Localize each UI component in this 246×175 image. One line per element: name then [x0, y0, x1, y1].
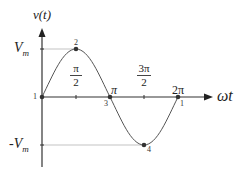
point-4 — [142, 143, 147, 148]
waveform-plot — [0, 0, 246, 175]
pi-label: π — [111, 84, 117, 96]
half-pi-label: π2 — [70, 63, 82, 88]
point-1 — [40, 95, 45, 100]
point-2-label: 2 — [74, 39, 78, 47]
x-axis-label: ωt — [217, 88, 233, 104]
y-axis-arrow-icon — [39, 28, 46, 37]
vm-label: Vm — [14, 41, 29, 58]
point-4-label: 4 — [147, 146, 151, 154]
three-half-pi-label: 3π2 — [137, 63, 151, 88]
point-3-label: 3 — [104, 100, 108, 108]
point-2 — [74, 47, 79, 52]
neg-vm-label: -Vm — [9, 137, 29, 154]
point-5-label: 1 — [180, 100, 184, 108]
x-axis-arrow-icon — [204, 94, 213, 101]
point-1-label: 1 — [33, 93, 37, 101]
y-axis-label: v(t) — [33, 8, 51, 21]
two-pi-label: 2π — [172, 84, 184, 96]
